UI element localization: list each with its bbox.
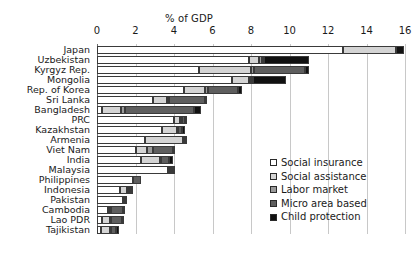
y-axis-category-label: Mongolia [0,75,90,84]
y-axis-category-label: Kazakhstan [0,125,90,134]
bar-segment [238,86,242,94]
legend-label-social-insurance: Social insurance [281,156,363,170]
bar-segment [253,76,286,84]
bar-row: Sri Lanka [97,96,405,104]
bar-segment [153,146,173,154]
y-axis-category-label: Uzbekistan [0,55,90,64]
bar-segment [343,46,396,54]
bar-segment [122,216,124,224]
bar-segment [264,56,309,64]
bar-segment [97,66,199,74]
bar-segment [97,76,232,84]
legend-item-social-insurance: Social insurance [270,156,367,170]
plot-area: 0246810121416 JapanUzbekistanKyrgyz Rep.… [97,44,405,234]
bar-segment [199,66,251,74]
x-axis-tick-label: 4 [159,25,189,36]
y-axis-category-label: Tajikistan [0,225,90,234]
x-axis-title-text: % of GDP [165,13,213,24]
x-axis-tick-label: 2 [121,25,151,36]
y-axis-category-label: Bangladesh [0,105,90,114]
bar-segment [133,176,142,184]
bar-segment [97,186,120,194]
bar-segment [194,106,201,114]
bar-segment [254,66,305,74]
bar-row: Mongolia [97,76,405,84]
legend-swatch-icon-micro-area-based [270,200,277,207]
x-axis-tick-label: 14 [352,25,382,36]
bar-segment [97,146,136,154]
bar-segment [232,76,249,84]
bar-segment [161,156,169,164]
y-axis-category-label: Cambodia [0,205,90,214]
bar-segment [102,216,111,224]
y-axis-category-label: Lao PDR [0,215,90,224]
y-axis-category-label: Malaysia [0,165,90,174]
bar-segment [97,196,123,204]
bar-row: Rep. of Korea [97,86,405,94]
legend-item-micro-area-based: Micro area based [270,197,367,211]
legend-item-child-protection: Child protection [270,210,367,224]
legend-label-labor-market: Labor market [281,183,348,197]
bar-segment [173,146,175,154]
legend-label-micro-area-based: Micro area based [281,197,367,211]
bar-row: Bangladesh [97,106,405,114]
legend-swatch-icon-social-insurance [270,159,277,166]
bar-row: Tajikistan [97,226,405,234]
bar-segment [182,126,185,134]
bar-segment [123,206,125,214]
bar-segment [97,136,145,144]
bar-segment [145,136,183,144]
bar-segment [97,156,141,164]
x-axis-tick-label: 10 [275,25,305,36]
bar-row: Uzbekistan [97,56,405,64]
y-axis-category-label: Sri Lanka [0,95,90,104]
y-axis-category-label: Pakistan [0,195,90,204]
x-axis-tick-label: 16 [390,25,418,36]
bar-segment [131,186,133,194]
bar-segment [305,66,309,74]
y-axis-category-label: Japan [0,45,90,54]
bar-row: Viet Nam [97,146,405,154]
bar-segment [97,116,174,124]
bar-segment [141,156,159,164]
bar-segment [185,116,187,124]
bar-segment [120,186,127,194]
chart-legend: Social insurance Social assistance Labor… [270,156,367,224]
stacked-bar-chart: % of GDP 0246810121416 JapanUzbekistanKy… [0,0,418,255]
x-axis-tick-label: 8 [236,25,266,36]
bar-segment [184,86,205,94]
bar-segment [101,226,110,234]
bar-segment [169,96,205,104]
y-axis-category-label: Armenia [0,135,90,144]
bar-segment [125,196,127,204]
bar-segment [111,216,122,224]
bar-segment [249,56,259,64]
bar-segment [396,46,404,54]
y-axis-category-label: PRC [0,115,90,124]
legend-swatch-icon-social-assistance [270,173,277,180]
bar-segment [208,86,239,94]
bar-segment [136,146,148,154]
gridline [405,44,406,234]
bar-segment [97,56,249,64]
bar-segment [97,86,184,94]
x-axis-tick-label: 12 [313,25,343,36]
bar-segment [102,106,121,114]
bar-row: Japan [97,46,405,54]
legend-label-child-protection: Child protection [281,210,361,224]
y-axis-category-label: Indonesia [0,185,90,194]
bar-segment [205,96,207,104]
x-axis-tick-label: 0 [82,25,112,36]
bar-segment [97,206,108,214]
bar-segment [97,176,133,184]
bar-segment [169,156,173,164]
bar-segment [173,166,175,174]
bar-segment [185,136,187,144]
y-axis-category-label: Kyrgyz Rep. [0,65,90,74]
legend-swatch-icon-labor-market [270,186,277,193]
bar-segment [97,166,168,174]
bar-row: Kyrgyz Rep. [97,66,405,74]
bar-segment [97,46,343,54]
y-axis-category-label: Rep. of Korea [0,85,90,94]
bar-segment [97,126,162,134]
